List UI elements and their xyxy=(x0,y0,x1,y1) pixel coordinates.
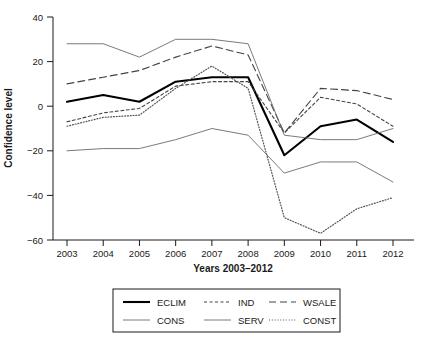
y-tick-label: 20 xyxy=(32,56,43,67)
x-tick-label: 2007 xyxy=(201,248,222,259)
legend-label-const: CONST xyxy=(303,315,336,326)
x-tick-label: 2008 xyxy=(238,248,259,259)
x-tick-label: 2009 xyxy=(274,248,295,259)
x-tick-label: 2005 xyxy=(129,248,150,259)
legend-label-wsale: WSALE xyxy=(303,297,336,308)
x-tick-label: 2012 xyxy=(382,248,403,259)
y-tick-label: −60 xyxy=(27,235,43,246)
y-tick-label: 40 xyxy=(32,12,43,23)
x-tick-label: 2003 xyxy=(56,248,77,259)
x-tick-label: 2010 xyxy=(310,248,331,259)
legend-label-ind: IND xyxy=(238,297,255,308)
x-axis-title: Years 2003–2012 xyxy=(193,263,273,274)
x-tick-label: 2006 xyxy=(165,248,186,259)
legend-label-cons: CONS xyxy=(157,315,184,326)
x-tick-label: 2011 xyxy=(347,248,367,259)
y-tick-label: −20 xyxy=(27,145,43,156)
x-tick-label: 2004 xyxy=(93,248,114,259)
legend-label-serv: SERV xyxy=(238,315,264,326)
y-tick-label: 0 xyxy=(38,101,43,112)
legend-box xyxy=(113,289,340,332)
y-axis-title: Confidence level xyxy=(3,88,14,168)
legend-label-eclim: ECLIM xyxy=(157,297,186,308)
confidence-level-line-chart: Confidence level 40200−20−40−60 20032004… xyxy=(0,0,428,343)
y-tick-label: −40 xyxy=(27,190,43,201)
